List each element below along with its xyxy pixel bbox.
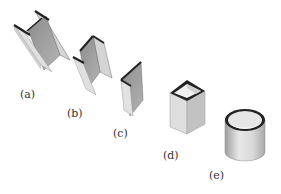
angle-shape (121, 62, 143, 116)
i-beam-shape (14, 11, 70, 72)
label-b: (b) (67, 107, 83, 120)
square-tube-shape (170, 80, 205, 134)
shapes-illustration (0, 0, 281, 194)
channel-shape (73, 36, 112, 95)
label-c: (c) (113, 127, 128, 140)
label-d: (d) (163, 149, 179, 162)
label-a: (a) (20, 88, 35, 101)
figure-canvas: (a) (b) (c) (d) (e) (0, 0, 281, 194)
label-e: (e) (209, 169, 224, 182)
circular-tube-shape (225, 109, 265, 161)
